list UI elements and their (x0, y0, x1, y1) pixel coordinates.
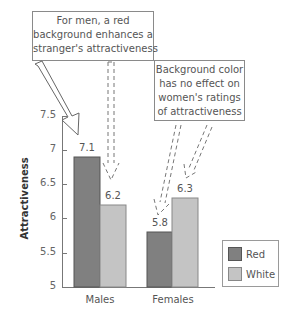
y-tick-label: 5 (32, 280, 56, 291)
legend-item-white: White (228, 266, 275, 282)
y-tick-label: 6 (32, 211, 56, 222)
category-label-males: Males (70, 294, 130, 305)
y-axis (62, 116, 67, 287)
legend-label-white: White (246, 269, 275, 280)
y-tick-label: 6.5 (32, 177, 56, 188)
y-tick-label: 7 (32, 143, 56, 154)
dashed-arrow-icon (184, 125, 212, 178)
bar-value-label: 6.3 (172, 183, 198, 194)
legend-label-red: Red (246, 249, 265, 260)
legend-item-red: Red (228, 246, 265, 262)
bar-males-red (74, 157, 100, 287)
bar-females-white (172, 198, 198, 287)
legend-swatch-red (228, 247, 242, 261)
bar-value-label: 6.2 (100, 190, 126, 201)
y-axis-title: Attractiveness (19, 160, 30, 240)
bar-females-red (147, 232, 172, 287)
category-label-females: Females (143, 294, 203, 305)
y-tick-label: 7.5 (32, 109, 56, 120)
bar-value-label: 5.8 (147, 217, 173, 228)
legend-swatch-white (228, 267, 242, 281)
bar-males-white (100, 205, 126, 287)
bar-value-label: 7.1 (74, 142, 100, 153)
dashed-arrow-icon (103, 62, 119, 180)
solid-arrow-icon (35, 61, 79, 135)
legend: Red White (222, 240, 279, 287)
y-tick-label: 5.5 (32, 246, 56, 257)
